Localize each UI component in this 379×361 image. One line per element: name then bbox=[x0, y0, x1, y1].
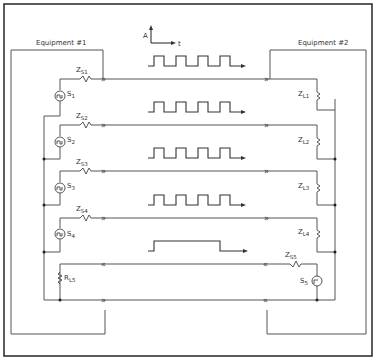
svg-text:»: » bbox=[101, 121, 106, 130]
svg-text:»: » bbox=[264, 167, 269, 176]
axis-x-label: t bbox=[178, 40, 181, 48]
svg-text:»: » bbox=[101, 167, 106, 176]
zs1-label: ZS1 bbox=[76, 66, 88, 75]
channel-4: » » ZS4 ZL4 S4 bbox=[43, 205, 337, 254]
waveform-ch4 bbox=[148, 195, 246, 207]
svg-text:»: » bbox=[264, 121, 269, 130]
channel-3: » » ZS3 ZL3 S3 bbox=[43, 158, 337, 207]
zl4-label: ZL4 bbox=[298, 228, 310, 237]
zl2-label: ZL2 bbox=[298, 136, 309, 145]
zs4-label: ZS4 bbox=[76, 205, 88, 214]
svg-text:»: » bbox=[101, 214, 106, 223]
waveform-ch5 bbox=[148, 241, 248, 253]
s4-label: S4 bbox=[67, 230, 75, 239]
s2-label: S2 bbox=[67, 136, 75, 145]
s3-label: S3 bbox=[67, 182, 75, 191]
zs5-label: ZS5 bbox=[285, 251, 297, 260]
axes-legend: A t bbox=[143, 25, 181, 48]
svg-text:«: « bbox=[101, 260, 106, 269]
waveform-ch3 bbox=[148, 148, 246, 160]
s1-label: S1 bbox=[67, 90, 75, 99]
svg-text:»: » bbox=[264, 214, 269, 223]
zs3-label: ZS3 bbox=[76, 158, 88, 167]
zl3-label: ZL3 bbox=[298, 182, 310, 191]
svg-text:«: « bbox=[263, 260, 268, 269]
equipment-2-label: Equipment #2 bbox=[298, 39, 349, 47]
interconnect-diagram: Equipment #1 Equipment #2 A t bbox=[0, 0, 379, 361]
svg-text:»: » bbox=[101, 75, 106, 84]
zl1-label: ZL1 bbox=[298, 90, 309, 99]
channel-5: « « ZS5 RL5 S5 bbox=[58, 251, 322, 300]
svg-text:«: « bbox=[263, 296, 268, 305]
svg-text:»: » bbox=[101, 296, 106, 305]
channel-1: » » ZS1 ZL1 S1 bbox=[44, 66, 335, 116]
waveform-ch1 bbox=[148, 56, 246, 68]
s5-label: S5 bbox=[300, 277, 308, 286]
waveform-ch2 bbox=[148, 102, 246, 114]
svg-text:»: » bbox=[264, 75, 269, 84]
axis-y-label: A bbox=[143, 32, 148, 40]
zs2-label: ZS2 bbox=[76, 112, 88, 121]
rl5-label: RL5 bbox=[64, 274, 76, 283]
equipment-1-label: Equipment #1 bbox=[36, 39, 87, 47]
channel-2: » » ZS2 ZL2 S2 bbox=[43, 112, 337, 161]
common-return: » « bbox=[44, 296, 335, 305]
